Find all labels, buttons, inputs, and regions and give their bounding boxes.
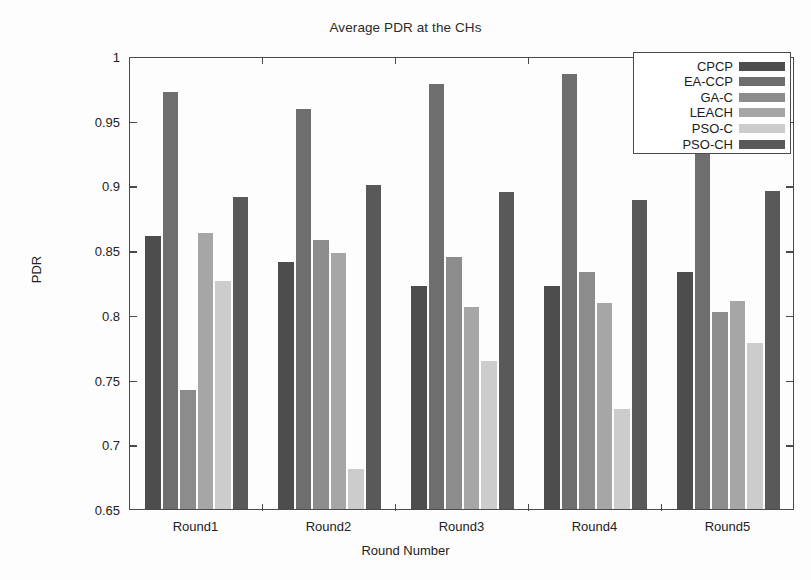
bar-round3-pso-c (481, 361, 497, 509)
y-axis-tick-4: 0.85 (60, 244, 120, 259)
bar-round4-pso-ch (632, 200, 648, 509)
bar-round1-pso-ch (233, 197, 249, 509)
x-tick-mark-3 (528, 504, 529, 511)
y-tick-mark-6 (129, 122, 137, 123)
legend-label-cpcp: CPCP (697, 59, 733, 74)
y-tick-mark-1 (129, 445, 137, 446)
y-tick-mark-right-4 (786, 251, 794, 252)
x-axis-tick-0: Round1 (136, 519, 256, 534)
bar-round5-pso-ch (765, 191, 781, 509)
legend-label-pso-c: PSO-C (692, 121, 733, 136)
y-tick-mark-2 (129, 381, 137, 382)
legend-label-pso-ch: PSO-CH (682, 137, 733, 152)
legend-item-ea-ccp: EA-CCP (634, 74, 792, 90)
legend-label-ea-ccp: EA-CCP (684, 74, 733, 89)
y-tick-mark-right-5 (786, 186, 794, 187)
bar-round3-cpcp (411, 286, 427, 509)
bar-round1-ga-c (180, 390, 196, 509)
legend-item-cpcp: CPCP (634, 58, 792, 74)
legend-item-leach: LEACH (634, 105, 792, 121)
bar-round4-cpcp (544, 286, 560, 509)
y-tick-mark-right-2 (786, 381, 794, 382)
bar-round5-pso-c (747, 343, 763, 509)
y-tick-mark-4 (129, 251, 137, 252)
bar-round5-ga-c (712, 312, 728, 509)
bar-round4-ea-ccp (562, 74, 578, 509)
y-tick-mark-3 (129, 316, 137, 317)
x-tick-mark-2 (395, 504, 396, 511)
x-axis-label: Round Number (0, 543, 811, 558)
legend-swatch-leach (739, 108, 785, 117)
y-axis-tick-3: 0.8 (60, 308, 120, 323)
bar-round3-leach (464, 307, 480, 509)
y-axis-tick-1: 0.7 (60, 438, 120, 453)
y-axis-tick-labels: 0.650.70.750.80.850.90.951 (56, 57, 120, 510)
bar-round1-cpcp (145, 236, 161, 509)
bar-round5-leach (730, 301, 746, 509)
chart-title: Average PDR at the CHs (0, 20, 811, 35)
x-axis-tick-4: Round5 (668, 519, 788, 534)
legend-item-pso-ch: PSO-CH (634, 136, 792, 152)
legend-swatch-pso-ch (739, 140, 785, 149)
legend-label-leach: LEACH (690, 105, 733, 120)
bar-round2-ga-c (313, 240, 329, 509)
bar-round4-pso-c (614, 409, 630, 509)
y-tick-mark-5 (129, 186, 137, 187)
legend-swatch-pso-c (739, 124, 785, 133)
legend: CPCPEA-CCPGA-CLEACHPSO-CPSO-CH (633, 52, 791, 154)
legend-swatch-ea-ccp (739, 77, 785, 86)
bar-round2-leach (331, 253, 347, 509)
bar-round1-ea-ccp (163, 92, 179, 509)
y-axis-tick-6: 0.95 (60, 114, 120, 129)
x-axis-tick-3: Round4 (535, 519, 655, 534)
bar-round5-cpcp (677, 272, 693, 509)
legend-swatch-ga-c (739, 93, 785, 102)
x-tick-mark-top-2 (395, 57, 396, 64)
bar-round2-cpcp (278, 262, 294, 509)
y-tick-mark-right-3 (786, 316, 794, 317)
y-axis-label: PDR (29, 230, 44, 310)
y-axis-tick-2: 0.75 (60, 373, 120, 388)
x-axis-tick-2: Round3 (402, 519, 522, 534)
bar-round3-ga-c (446, 257, 462, 509)
y-axis-tick-7: 1 (60, 50, 120, 65)
x-tick-mark-top-1 (262, 57, 263, 64)
y-axis-tick-0: 0.65 (60, 503, 120, 518)
bar-round4-ga-c (579, 272, 595, 509)
y-tick-mark-right-1 (786, 445, 794, 446)
legend-item-pso-c: PSO-C (634, 120, 792, 136)
bar-round2-ea-ccp (296, 109, 312, 509)
bar-round3-ea-ccp (429, 84, 445, 509)
legend-label-ga-c: GA-C (701, 90, 734, 105)
x-tick-mark-top-3 (528, 57, 529, 64)
chart-figure: Average PDR at the CHs PDR 0.650.70.750.… (0, 0, 811, 580)
bar-round4-leach (597, 303, 613, 509)
bar-round1-pso-c (215, 281, 231, 509)
y-axis-tick-5: 0.9 (60, 179, 120, 194)
x-axis-tick-1: Round2 (269, 519, 389, 534)
bar-round2-pso-c (348, 469, 364, 509)
bar-round2-pso-ch (366, 185, 382, 509)
legend-swatch-cpcp (739, 62, 785, 71)
legend-item-ga-c: GA-C (634, 89, 792, 105)
bar-round3-pso-ch (499, 192, 515, 509)
x-tick-mark-1 (262, 504, 263, 511)
bar-round1-leach (198, 233, 214, 509)
x-tick-mark-4 (661, 504, 662, 511)
